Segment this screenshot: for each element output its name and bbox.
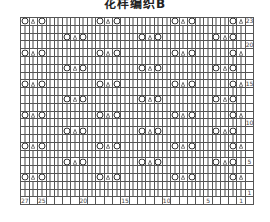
knit-stitch-icon — [112, 95, 120, 103]
row-label — [245, 33, 254, 41]
decrease-icon — [29, 142, 37, 150]
knit-stitch-icon — [96, 158, 104, 166]
knit-stitch-icon — [138, 173, 146, 181]
knit-stitch-icon — [29, 88, 37, 96]
knit-stitch-icon — [204, 142, 212, 150]
yarn-over-icon — [154, 33, 162, 41]
knit-stitch-icon — [138, 142, 146, 150]
knit-stitch-icon — [220, 49, 228, 57]
yarn-over-icon — [171, 111, 179, 119]
knit-stitch-icon — [138, 80, 146, 88]
knitting-chart: 2320151051272520151051 — [20, 17, 254, 205]
stitch-number-row: 272520151051 — [21, 197, 254, 205]
knit-stitch-icon — [171, 181, 179, 189]
knit-stitch-icon — [154, 49, 162, 57]
knit-stitch-icon — [71, 41, 79, 49]
knit-stitch-icon — [162, 72, 171, 80]
knit-stitch-icon — [121, 72, 130, 80]
knit-stitch-icon — [138, 41, 146, 49]
decrease-icon — [146, 127, 154, 135]
knit-stitch-icon — [129, 64, 137, 72]
knit-stitch-icon — [146, 88, 154, 96]
knit-stitch-icon — [171, 95, 179, 103]
yarn-over-icon — [112, 142, 120, 150]
knit-stitch-icon — [154, 142, 162, 150]
stitch-label — [104, 197, 112, 205]
knit-stitch-icon — [37, 41, 46, 49]
knit-stitch-icon — [71, 119, 79, 127]
knit-stitch-icon — [138, 111, 146, 119]
knit-stitch-icon — [54, 173, 62, 181]
knit-stitch-icon — [179, 127, 187, 135]
knit-stitch-icon — [29, 72, 37, 80]
knit-stitch-icon — [179, 33, 187, 41]
knit-stitch-icon — [121, 189, 130, 197]
knit-stitch-icon — [154, 56, 162, 64]
knit-stitch-icon — [229, 41, 237, 49]
yarn-over-icon — [96, 142, 104, 150]
knit-stitch-icon — [112, 64, 120, 72]
yarn-over-icon — [63, 64, 71, 72]
knit-stitch-icon — [212, 111, 220, 119]
knit-stitch-icon — [138, 25, 146, 33]
knit-stitch-icon — [71, 25, 79, 33]
yarn-over-icon — [79, 158, 88, 166]
decrease-icon — [179, 142, 187, 150]
knit-stitch-icon — [121, 111, 130, 119]
knit-stitch-icon — [29, 25, 37, 33]
knit-stitch-icon — [196, 25, 204, 33]
knit-stitch-icon — [179, 166, 187, 174]
knit-stitch-icon — [138, 88, 146, 96]
decrease-icon — [104, 18, 112, 26]
knit-stitch-icon — [138, 189, 146, 197]
knit-stitch-icon — [46, 88, 54, 96]
knit-stitch-icon — [179, 134, 187, 142]
knit-stitch-icon — [129, 181, 137, 189]
knit-stitch-icon — [187, 127, 195, 135]
knit-stitch-icon — [96, 134, 104, 142]
knit-stitch-icon — [179, 150, 187, 158]
knit-stitch-icon — [129, 134, 137, 142]
knit-stitch-icon — [63, 41, 71, 49]
knit-stitch-icon — [112, 150, 120, 158]
knit-stitch-icon — [187, 158, 195, 166]
knit-stitch-icon — [29, 56, 37, 64]
knit-stitch-icon — [204, 33, 212, 41]
knit-stitch-icon — [21, 88, 30, 96]
knit-stitch-icon — [204, 80, 212, 88]
knit-stitch-icon — [162, 49, 171, 57]
knit-stitch-icon — [204, 119, 212, 127]
knit-stitch-icon — [63, 56, 71, 64]
knit-stitch-icon — [46, 25, 54, 33]
yarn-over-icon — [37, 49, 46, 57]
decrease-icon — [104, 173, 112, 181]
knit-stitch-icon — [220, 103, 228, 111]
knit-stitch-icon — [229, 166, 237, 174]
knit-stitch-icon — [179, 56, 187, 64]
knit-stitch-icon — [204, 150, 212, 158]
knit-stitch-icon — [71, 18, 79, 26]
yarn-over-icon — [63, 158, 71, 166]
knit-stitch-icon — [121, 166, 130, 174]
knit-stitch-icon — [237, 88, 245, 96]
yarn-over-icon — [212, 95, 220, 103]
knit-stitch-icon — [129, 119, 137, 127]
knit-stitch-icon — [196, 173, 204, 181]
knit-stitch-icon — [146, 166, 154, 174]
knit-stitch-icon — [187, 166, 195, 174]
knit-stitch-icon — [63, 150, 71, 158]
knit-stitch-icon — [187, 119, 195, 127]
knit-stitch-icon — [162, 25, 171, 33]
row-label: 5 — [245, 158, 254, 166]
knit-stitch-icon — [187, 103, 195, 111]
yarn-over-icon — [187, 80, 195, 88]
knit-stitch-icon — [104, 64, 112, 72]
chart-row — [21, 88, 254, 96]
knit-stitch-icon — [146, 80, 154, 88]
knit-stitch-icon — [162, 41, 171, 49]
knit-stitch-icon — [171, 72, 179, 80]
knit-stitch-icon — [196, 18, 204, 26]
knit-stitch-icon — [104, 189, 112, 197]
knit-stitch-icon — [63, 134, 71, 142]
knit-stitch-icon — [63, 18, 71, 26]
